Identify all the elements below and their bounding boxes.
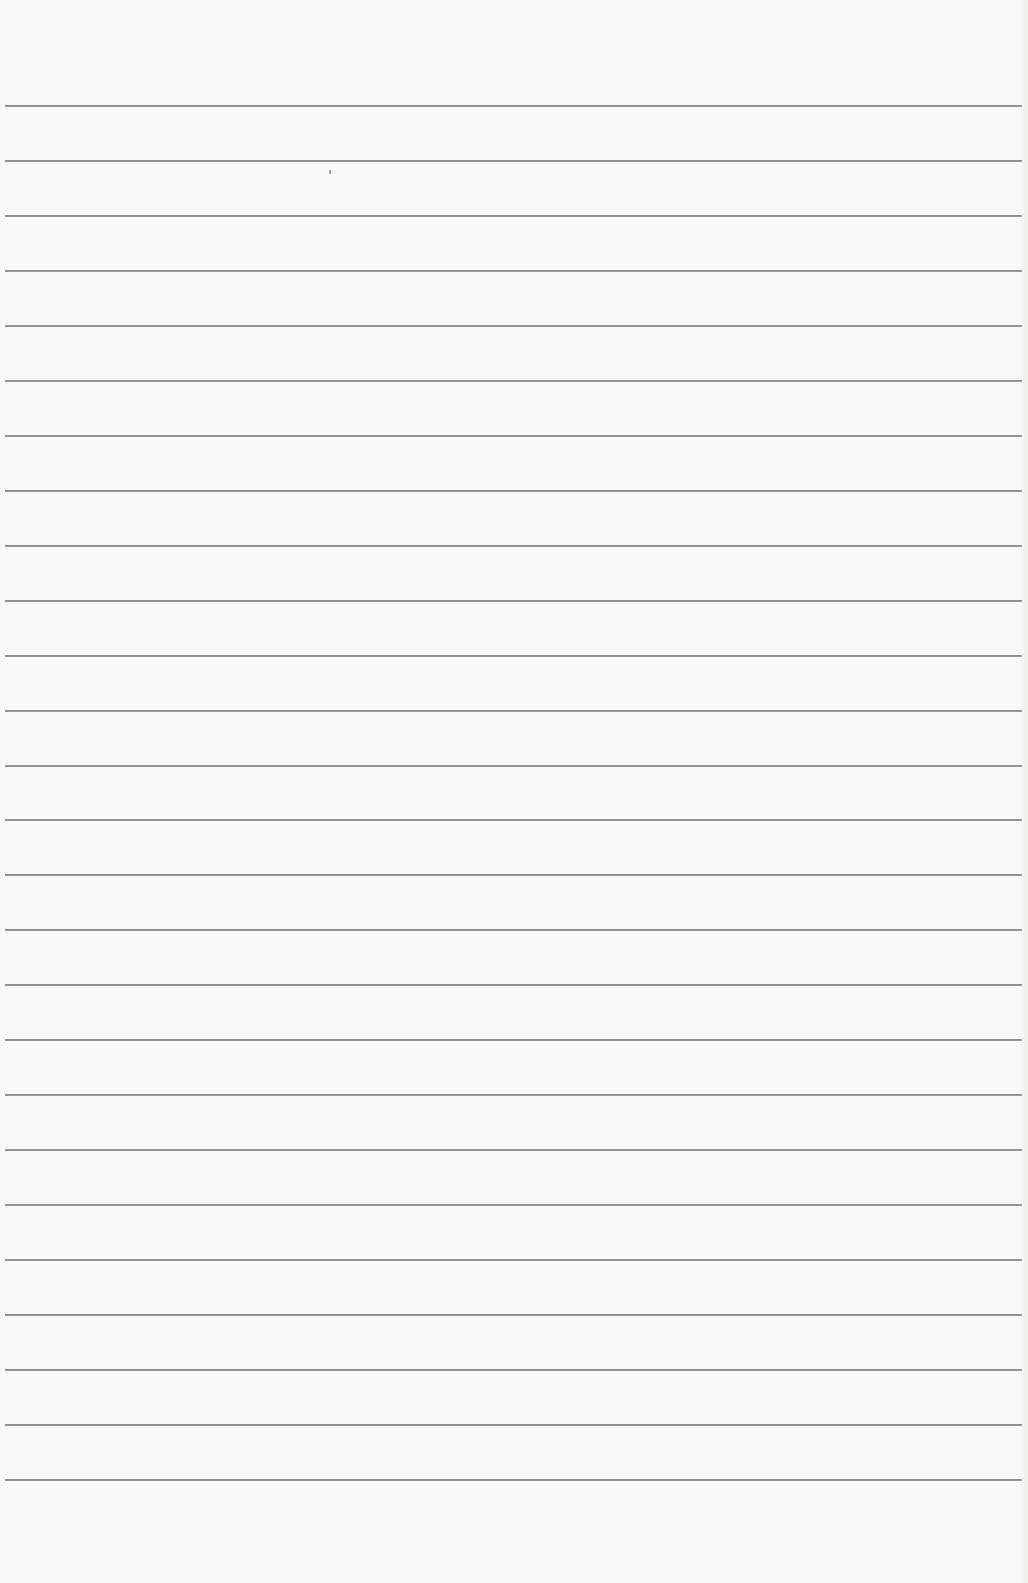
ruled-line	[5, 270, 1022, 272]
ruled-line	[5, 160, 1022, 162]
ruled-line	[5, 819, 1022, 821]
ruled-line	[5, 1369, 1022, 1371]
paper-speck	[329, 170, 331, 174]
ruled-line	[5, 929, 1022, 931]
ruled-line	[5, 984, 1022, 986]
ruled-line	[5, 490, 1022, 492]
ruled-line	[5, 325, 1022, 327]
ruled-line	[5, 874, 1022, 876]
ruled-line	[5, 600, 1022, 602]
ruled-line	[5, 545, 1022, 547]
ruled-line	[5, 765, 1022, 767]
ruled-line	[5, 655, 1022, 657]
ruled-line	[5, 435, 1022, 437]
ruled-line	[5, 1424, 1022, 1426]
ruled-line	[5, 215, 1022, 217]
ruled-line	[5, 105, 1022, 107]
ruled-line	[5, 1149, 1022, 1151]
ruled-line	[5, 1314, 1022, 1316]
ruled-line	[5, 1039, 1022, 1041]
ruled-line	[5, 1479, 1022, 1481]
lined-paper-sheet	[0, 0, 1028, 1583]
ruled-line	[5, 1094, 1022, 1096]
ruled-line	[5, 710, 1022, 712]
ruled-line	[5, 1204, 1022, 1206]
ruled-line	[5, 380, 1022, 382]
ruled-line	[5, 1259, 1022, 1261]
paper-edge-shade	[1020, 0, 1028, 1583]
